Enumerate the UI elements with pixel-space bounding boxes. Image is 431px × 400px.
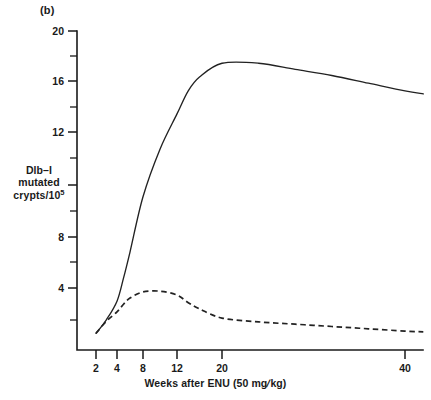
series-line-dashed <box>96 291 423 333</box>
y-tick-label-16: 16 <box>52 75 64 87</box>
x-axis-title: Weeks after ENU (50 mg/kg) <box>0 377 431 389</box>
x-tick-label-20: 20 <box>216 362 228 374</box>
x-axis-ticks <box>96 350 405 359</box>
y-axis-title-exponent: 5 <box>60 187 64 196</box>
y-tick-label-12: 12 <box>52 126 64 138</box>
y-axis-tick-labels: 20 16 12 8 4 <box>52 25 64 294</box>
y-tick-label-8: 8 <box>58 231 64 243</box>
x-axis-title-part2: kg) <box>270 377 286 389</box>
y-tick-label-4: 4 <box>58 282 64 294</box>
x-axis-title-part1: Weeks after ENU (50 mg <box>145 377 268 389</box>
figure-panel-b: (b) Dlb–I mutated crypts/105 <box>0 0 431 400</box>
x-axis-tick-labels: 2 4 8 12 20 40 <box>93 362 411 374</box>
x-tick-label-4: 4 <box>114 362 120 374</box>
x-tick-label-2: 2 <box>93 362 99 374</box>
panel-label: (b) <box>40 4 55 16</box>
y-axis-title-line2: mutated <box>18 176 60 188</box>
y-axis-title: Dlb–I mutated crypts/105 <box>2 164 76 201</box>
y-axis-title-line1: Dlb–I <box>26 164 52 176</box>
x-tick-label-8: 8 <box>140 362 146 374</box>
y-axis-major-ticks <box>68 31 77 288</box>
axis-spines <box>77 31 423 350</box>
series-line-solid <box>96 62 423 333</box>
y-tick-label-20: 20 <box>52 25 64 37</box>
y-axis-title-line3: crypts/10 <box>13 189 60 201</box>
x-tick-label-12: 12 <box>171 362 183 374</box>
x-tick-label-40: 40 <box>399 362 411 374</box>
